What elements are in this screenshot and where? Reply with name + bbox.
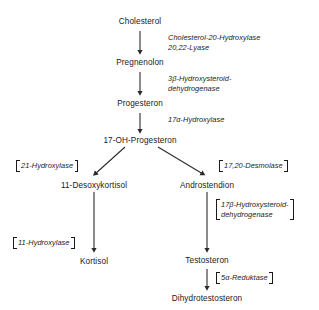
arrow-ohprogesteron-desoxykortisol [95,147,125,174]
enzyme-line-1: 11-Hydroxylase [18,238,70,248]
bracket-left-icon [216,272,220,284]
enzyme-5alpha-reduktase: 5α-Reduktase [216,272,273,284]
enzyme-line-1: 3β-Hydroxysteroid- [168,74,231,84]
bracket-right-icon [284,160,288,172]
enzyme-cholesterol-20-hydroxylase: Cholesterol-20-Hydroxylase 20,22-Lyase [168,32,261,53]
enzyme-line-1: 17,20-Desmolase [224,161,283,171]
node-kortisol: Kortisol [80,257,108,267]
enzyme-17alpha-hydroxylase: 17α-Hydroxylase [168,114,224,126]
bracket-right-icon [269,272,273,284]
bracket-right-icon [71,237,75,249]
bracket-left-icon [13,237,17,249]
node-androstendion: Androstendion [180,181,234,191]
bracket-left-icon [16,160,20,172]
bracket-left-icon [216,199,220,220]
node-cholesterol: Cholesterol [119,17,162,27]
enzyme-line-1: 21-Hydroxylase [21,161,73,171]
pathway-arrows [0,0,319,310]
enzyme-line-2: dehydrogenase [221,210,289,220]
enzyme-17-20-desmolase: 17,20-Desmolase [219,160,288,172]
enzyme-line-1: 17α-Hydroxylase [168,115,224,125]
node-17-oh-progesteron: 17-OH-Progesteron [103,136,176,146]
enzyme-3beta-hydroxysteroid-dehydrogenase: 3β-Hydroxysteroid- dehydrogenase [168,73,231,94]
enzyme-11-hydroxylase: 11-Hydroxylase [13,237,75,249]
enzyme-line-1: Cholesterol-20-Hydroxylase [168,33,261,43]
enzyme-line-1: 5α-Reduktase [221,273,268,283]
node-progesteron: Progesteron [117,99,163,109]
node-11-desoxykortisol: 11-Desoxykortisol [61,181,127,191]
steroid-pathway-diagram: Cholesterol Pregnenolon Progesteron 17-O… [0,0,319,310]
bracket-right-icon [290,199,294,220]
bracket-right-icon [75,160,79,172]
node-testosteron: Testosteron [185,256,228,266]
enzyme-line-1: 17β-Hydroxysteroid- [221,200,289,210]
bracket-left-icon [219,160,223,172]
enzyme-line-2: dehydrogenase [168,84,231,94]
enzyme-21-hydroxylase: 21-Hydroxylase [16,160,78,172]
node-dihydrotestosteron: Dihydrotestosteron [172,294,243,304]
arrow-ohprogesteron-androstendion [158,147,203,174]
enzyme-17beta-hydroxysteroid-dehydrogenase: 17β-Hydroxysteroid- dehydrogenase [216,199,294,220]
enzyme-line-2: 20,22-Lyase [168,43,261,53]
node-pregnenolon: Pregnenolon [116,58,164,68]
